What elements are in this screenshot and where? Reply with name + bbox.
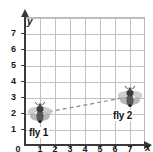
coordinate-grid-figure: y x 7 6 5 4 3 2 1 0 1 2 3 4 5 6 7 (0, 0, 153, 152)
fly-1-label: fly 1 (28, 127, 49, 138)
fly-icon (28, 100, 52, 126)
fly-2-label: fly 2 (112, 110, 133, 121)
connector-dashed-line (0, 0, 153, 152)
fly-icon (118, 84, 142, 110)
